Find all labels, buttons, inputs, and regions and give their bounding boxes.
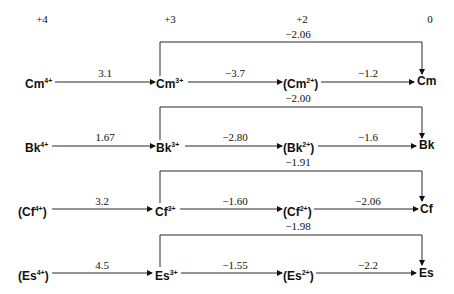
- paren-close: ): [314, 77, 318, 91]
- paren-close: ): [45, 269, 49, 283]
- paren-close: ): [308, 205, 312, 219]
- species-symbol: Bk: [419, 138, 434, 152]
- species-symbol: Cm: [287, 77, 306, 91]
- species-es0: Es: [419, 266, 434, 280]
- species-charge: 2+: [302, 269, 310, 276]
- paren-close: ): [43, 205, 47, 219]
- species-symbol: Es: [287, 269, 302, 283]
- species-symbol: Bk: [287, 141, 302, 155]
- species-symbol: Es: [419, 266, 434, 280]
- potential-2-to-0: −1.2: [358, 67, 378, 79]
- potential-3-to-2: −2.80: [222, 131, 247, 143]
- species-symbol: Es: [155, 269, 170, 283]
- species-bk0: Bk: [419, 138, 434, 152]
- species-bk2: (Bk2+): [283, 138, 314, 155]
- species-cf3: Cf3+: [155, 202, 176, 219]
- potential-3-to-2: −1.55: [222, 259, 247, 271]
- species-symbol: Cf: [287, 205, 300, 219]
- species-cf2: (Cf2+): [283, 202, 312, 219]
- potential-4-to-3: 3.2: [95, 195, 109, 207]
- species-es4: (Es4+): [18, 266, 49, 283]
- potential-3-to-2: −3.7: [225, 67, 245, 79]
- species-symbol: Bk: [25, 141, 40, 155]
- species-cm3: Cm3+: [156, 74, 183, 91]
- species-symbol: Cf: [420, 202, 433, 216]
- species-cf4: (Cf4+): [18, 202, 47, 219]
- species-es3: Es3+: [155, 266, 178, 283]
- species-cf0: Cf: [420, 202, 433, 216]
- species-charge: 3+: [175, 77, 183, 84]
- arrow-lines: [0, 0, 454, 294]
- species-charge: 4+: [37, 269, 45, 276]
- species-charge: 4+: [40, 141, 48, 148]
- bracket-potential: −2.06: [285, 28, 310, 40]
- species-cm0: Cm: [417, 74, 436, 88]
- potential-4-to-3: 4.5: [95, 259, 109, 271]
- species-charge: 4+: [44, 77, 52, 84]
- species-symbol: Cm: [417, 74, 436, 88]
- potential-2-to-0: −2.2: [358, 259, 378, 271]
- species-cm2: (Cm2+): [283, 74, 318, 91]
- paren-close: ): [310, 269, 314, 283]
- species-charge: 2+: [300, 205, 308, 212]
- species-charge: 4+: [35, 205, 43, 212]
- potential-2-to-0: −2.06: [355, 195, 380, 207]
- species-cm4: Cm4+: [25, 74, 52, 91]
- species-es2: (Es2+): [283, 266, 314, 283]
- species-symbol: Es: [22, 269, 37, 283]
- paren-close: ): [310, 141, 314, 155]
- species-bk3: Bk3+: [156, 138, 179, 155]
- species-bk4: Bk4+: [25, 138, 48, 155]
- species-charge: 3+: [168, 205, 176, 212]
- species-symbol: Cm: [156, 77, 175, 91]
- species-symbol: Cf: [155, 205, 168, 219]
- potential-2-to-0: −1.6: [358, 131, 378, 143]
- potential-4-to-3: 3.1: [98, 67, 112, 79]
- species-charge: 3+: [170, 269, 178, 276]
- species-symbol: Cm: [25, 77, 44, 91]
- bracket-potential: −1.98: [285, 220, 310, 232]
- potential-3-to-2: −1.60: [222, 195, 247, 207]
- potential-4-to-3: 1.67: [95, 131, 114, 143]
- bracket-potential: −1.91: [285, 156, 310, 168]
- species-charge: 3+: [171, 141, 179, 148]
- bracket-potential: −2.00: [285, 92, 310, 104]
- species-symbol: Bk: [156, 141, 171, 155]
- species-symbol: Cf: [22, 205, 35, 219]
